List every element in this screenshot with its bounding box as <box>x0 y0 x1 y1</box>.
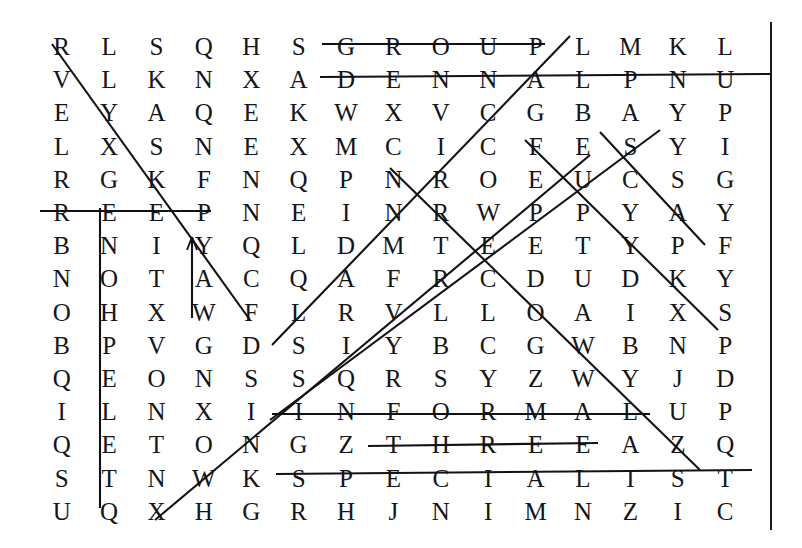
grid-cell[interactable]: O <box>465 167 512 192</box>
grid-cell[interactable]: R <box>417 167 464 192</box>
grid-cell[interactable]: X <box>654 300 701 325</box>
grid-cell[interactable]: Q <box>275 266 322 291</box>
grid-cell[interactable]: Y <box>654 134 701 159</box>
grid-cell[interactable]: E <box>85 432 132 457</box>
grid-cell[interactable]: B <box>38 333 85 358</box>
grid-cell[interactable]: K <box>275 100 322 125</box>
grid-cell[interactable]: N <box>228 167 275 192</box>
grid-cell[interactable]: F <box>370 266 417 291</box>
grid-cell[interactable]: H <box>85 300 132 325</box>
grid-cell[interactable]: A <box>322 266 369 291</box>
grid-cell[interactable]: N <box>370 200 417 225</box>
grid-cell[interactable]: S <box>38 466 85 491</box>
grid-cell[interactable]: A <box>607 100 654 125</box>
grid-cell[interactable]: Y <box>180 233 227 258</box>
grid-cell[interactable]: I <box>607 300 654 325</box>
grid-cell[interactable]: P <box>654 233 701 258</box>
grid-cell[interactable]: Y <box>654 100 701 125</box>
grid-cell[interactable]: V <box>133 333 180 358</box>
grid-cell[interactable]: N <box>654 67 701 92</box>
grid-cell[interactable]: S <box>275 366 322 391</box>
grid-cell[interactable]: C <box>465 134 512 159</box>
grid-cell[interactable]: K <box>133 67 180 92</box>
grid-cell[interactable]: G <box>701 167 748 192</box>
grid-cell[interactable]: S <box>275 466 322 491</box>
grid-cell[interactable]: E <box>275 200 322 225</box>
grid-cell[interactable]: Z <box>322 432 369 457</box>
grid-cell[interactable]: N <box>228 200 275 225</box>
grid-cell[interactable]: E <box>512 432 559 457</box>
grid-cell[interactable]: B <box>38 233 85 258</box>
grid-cell[interactable]: E <box>228 100 275 125</box>
grid-cell[interactable]: L <box>85 34 132 59</box>
grid-cell[interactable]: O <box>180 432 227 457</box>
grid-cell[interactable]: P <box>322 167 369 192</box>
grid-cell[interactable]: T <box>559 233 606 258</box>
grid-cell[interactable]: L <box>701 34 748 59</box>
grid-cell[interactable]: E <box>465 233 512 258</box>
grid-cell[interactable]: Q <box>701 432 748 457</box>
grid-cell[interactable]: E <box>512 233 559 258</box>
grid-cell[interactable]: G <box>512 333 559 358</box>
grid-cell[interactable]: N <box>133 466 180 491</box>
grid-cell[interactable]: R <box>465 432 512 457</box>
grid-cell[interactable]: N <box>133 399 180 424</box>
grid-cell[interactable]: J <box>370 499 417 524</box>
grid-cell[interactable]: Z <box>512 366 559 391</box>
grid-cell[interactable]: D <box>512 266 559 291</box>
grid-cell[interactable]: J <box>654 366 701 391</box>
grid-cell[interactable]: W <box>322 100 369 125</box>
grid-cell[interactable]: S <box>701 300 748 325</box>
grid-cell[interactable]: I <box>275 399 322 424</box>
grid-cell[interactable]: A <box>180 266 227 291</box>
grid-cell[interactable]: C <box>228 266 275 291</box>
grid-cell[interactable]: F <box>180 167 227 192</box>
grid-cell[interactable]: E <box>85 366 132 391</box>
grid-cell[interactable]: K <box>228 466 275 491</box>
grid-cell[interactable]: H <box>417 432 464 457</box>
grid-cell[interactable]: P <box>180 200 227 225</box>
grid-cell[interactable]: R <box>38 167 85 192</box>
grid-cell[interactable]: O <box>417 34 464 59</box>
grid-cell[interactable]: Y <box>465 366 512 391</box>
grid-cell[interactable]: N <box>38 266 85 291</box>
grid-cell[interactable]: L <box>38 134 85 159</box>
grid-cell[interactable]: A <box>607 432 654 457</box>
grid-cell[interactable]: M <box>512 399 559 424</box>
grid-cell[interactable]: S <box>275 34 322 59</box>
grid-cell[interactable]: G <box>322 34 369 59</box>
grid-cell[interactable]: I <box>417 134 464 159</box>
grid-cell[interactable]: A <box>559 300 606 325</box>
grid-cell[interactable]: P <box>701 100 748 125</box>
grid-cell[interactable]: S <box>607 134 654 159</box>
grid-cell[interactable]: H <box>180 499 227 524</box>
grid-cell[interactable]: Q <box>180 100 227 125</box>
grid-cell[interactable]: T <box>701 466 748 491</box>
grid-cell[interactable]: Q <box>275 167 322 192</box>
grid-cell[interactable]: F <box>512 134 559 159</box>
grid-cell[interactable]: Q <box>38 366 85 391</box>
grid-cell[interactable]: P <box>559 200 606 225</box>
grid-cell[interactable]: E <box>228 134 275 159</box>
grid-cell[interactable]: V <box>417 100 464 125</box>
grid-cell[interactable]: P <box>607 67 654 92</box>
grid-cell[interactable]: B <box>417 333 464 358</box>
grid-cell[interactable]: D <box>701 366 748 391</box>
grid-cell[interactable]: L <box>465 300 512 325</box>
grid-cell[interactable]: F <box>701 233 748 258</box>
grid-cell[interactable]: Q <box>322 366 369 391</box>
grid-cell[interactable]: X <box>133 499 180 524</box>
grid-cell[interactable]: W <box>180 300 227 325</box>
grid-cell[interactable]: T <box>133 266 180 291</box>
grid-cell[interactable]: Y <box>607 233 654 258</box>
grid-cell[interactable]: I <box>322 200 369 225</box>
grid-cell[interactable]: L <box>85 399 132 424</box>
grid-cell[interactable]: G <box>512 100 559 125</box>
grid-cell[interactable]: Q <box>180 34 227 59</box>
grid-cell[interactable]: N <box>559 499 606 524</box>
grid-cell[interactable]: G <box>228 499 275 524</box>
grid-cell[interactable]: F <box>228 300 275 325</box>
grid-cell[interactable]: E <box>133 200 180 225</box>
grid-cell[interactable]: B <box>559 100 606 125</box>
grid-cell[interactable]: N <box>654 333 701 358</box>
